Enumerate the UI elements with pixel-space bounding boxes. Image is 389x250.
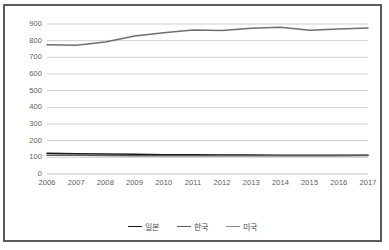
legend-line-swatch [128, 226, 142, 227]
y-axis-tick-label: 700 [16, 52, 42, 61]
x-axis-tick-label: 2006 [32, 178, 62, 187]
x-axis-tick-label: 2016 [324, 178, 354, 187]
legend-item[interactable]: 일본 [128, 221, 159, 232]
x-axis-tick-label: 2011 [178, 178, 208, 187]
line-chart-plot [5, 6, 380, 240]
series-line [47, 155, 368, 156]
legend-label: 미국 [243, 221, 257, 232]
y-axis-tick-label: 800 [16, 36, 42, 45]
legend-item[interactable]: 미국 [226, 221, 257, 232]
x-axis-tick-label: 2008 [90, 178, 120, 187]
y-axis-tick-label: 100 [16, 152, 42, 161]
series-line [47, 27, 368, 45]
x-axis-tick-label: 2010 [149, 178, 179, 187]
x-axis-tick-label: 2015 [295, 178, 325, 187]
y-axis-tick-label: 600 [16, 69, 42, 78]
x-axis-tick-label: 2012 [207, 178, 237, 187]
chart-figure-frame: 0100200300400500600700800900 20062007200… [3, 4, 382, 242]
y-axis-tick-label: 200 [16, 136, 42, 145]
x-axis-tick-label: 2017 [353, 178, 383, 187]
data-series-group [47, 27, 368, 156]
y-axis-tick-label: 300 [16, 119, 42, 128]
legend-label: 일본 [145, 221, 159, 232]
x-axis-tick-label: 2013 [236, 178, 266, 187]
legend-label: 한국 [194, 221, 208, 232]
x-axis-tick-label: 2009 [120, 178, 150, 187]
x-axis-tick-label: 2007 [61, 178, 91, 187]
y-axis-tick-label: 500 [16, 86, 42, 95]
y-axis-tick-label: 900 [16, 19, 42, 28]
x-axis-tick-label: 2014 [265, 178, 295, 187]
y-axis-tick-label: 400 [16, 102, 42, 111]
legend-item[interactable]: 한국 [177, 221, 208, 232]
y-axis-tick-label: 0 [16, 169, 42, 178]
legend-line-swatch [226, 226, 240, 227]
chart-legend: 일본한국미국 [5, 221, 380, 232]
gridlines-group [47, 24, 368, 174]
legend-line-swatch [177, 226, 191, 227]
